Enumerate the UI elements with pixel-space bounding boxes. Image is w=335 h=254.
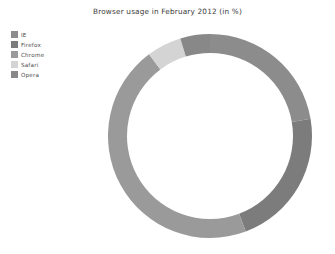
legend-swatch-icon-chrome	[11, 51, 18, 58]
donut-segment-ie[interactable]	[210, 34, 311, 122]
chart-legend: IE Firefox Chrome Safari Opera	[11, 30, 81, 80]
legend-swatch-icon-ie	[11, 31, 18, 38]
donut-segment-firefox[interactable]	[239, 119, 312, 232]
legend-label-opera: Opera	[21, 72, 39, 78]
legend-swatch-icon-safari	[11, 61, 18, 68]
legend-label-safari: Safari	[21, 62, 39, 68]
legend-item-chrome[interactable]: Chrome	[11, 50, 81, 59]
legend-label-ie: IE	[21, 32, 27, 38]
legend-item-ie[interactable]: IE	[11, 30, 81, 39]
chart-figure: Browser usage in February 2012 (in %) IE…	[0, 0, 335, 254]
legend-item-firefox[interactable]: Firefox	[11, 40, 81, 49]
donut-segment-group	[108, 34, 312, 238]
chart-title: Browser usage in February 2012 (in %)	[0, 7, 335, 16]
legend-item-opera[interactable]: Opera	[11, 70, 81, 79]
legend-label-chrome: Chrome	[21, 52, 44, 58]
legend-swatch-icon-opera	[11, 71, 18, 78]
legend-swatch-icon-firefox	[11, 41, 18, 48]
donut-segment-chrome[interactable]	[108, 54, 246, 238]
donut-segment-safari[interactable]	[149, 38, 186, 69]
donut-segment-opera[interactable]	[180, 34, 210, 57]
legend-item-safari[interactable]: Safari	[11, 60, 81, 69]
legend-label-firefox: Firefox	[21, 42, 41, 48]
